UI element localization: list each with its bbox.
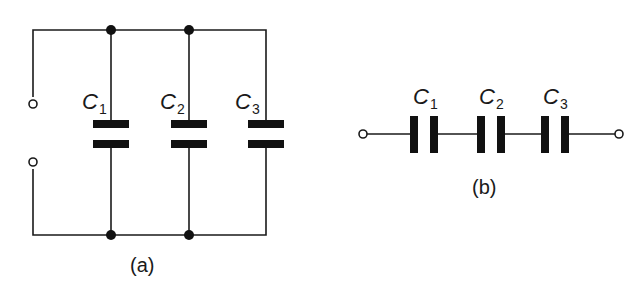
caption-b: (b) — [472, 176, 496, 198]
label-c3: C3 — [235, 89, 260, 117]
terminal-left — [359, 130, 367, 138]
capacitor-c2-symbol — [477, 116, 505, 153]
capacitor-c2-symbol — [171, 120, 207, 148]
caption-a: (a) — [130, 254, 154, 276]
label-c2: C2 — [160, 89, 185, 117]
capacitor-c3-symbol — [541, 116, 569, 153]
capacitor-c3-symbol — [248, 120, 284, 148]
top-rail-wire — [33, 30, 266, 124]
terminal-top — [29, 100, 37, 108]
label-c3: C3 — [543, 84, 568, 112]
label-c2: C2 — [479, 84, 504, 112]
terminal-right — [615, 130, 623, 138]
capacitor-c1-symbol — [93, 120, 129, 148]
series-circuit: C1 C2 C3 (b) — [359, 84, 623, 198]
junction-dot — [184, 230, 194, 240]
junction-dot — [184, 25, 194, 35]
bottom-rail-wire — [33, 146, 266, 235]
terminal-bottom — [29, 158, 37, 166]
capacitor-circuits-figure: C1 C2 C3 (a) C1 C2 C3 (b) — [0, 0, 633, 283]
parallel-circuit: C1 C2 C3 (a) — [29, 25, 284, 276]
label-c1: C1 — [82, 89, 107, 117]
label-c1: C1 — [413, 84, 438, 112]
junction-dot — [106, 25, 116, 35]
junction-dot — [106, 230, 116, 240]
capacitor-c1-symbol — [410, 116, 438, 153]
